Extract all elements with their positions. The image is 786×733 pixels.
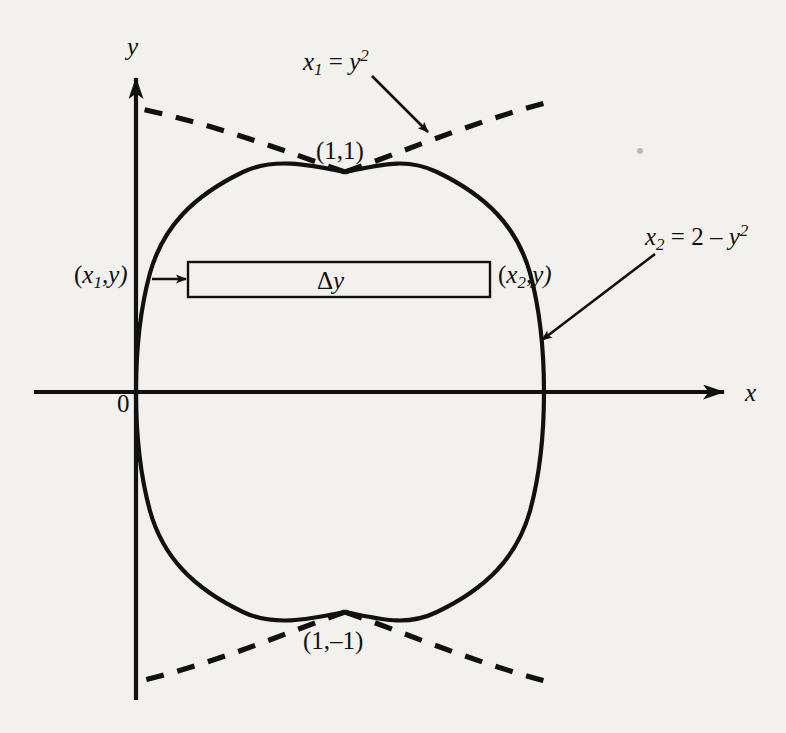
label-origin: 0 xyxy=(117,391,130,416)
label-curve-x1-equation: x1 = y2 xyxy=(303,47,369,78)
label-strip-right-point: (x2,y) xyxy=(498,262,552,291)
arrow-to-curve-x2 xyxy=(542,254,655,340)
label-intersection-point-bottom: (1,–1) xyxy=(303,628,363,653)
diagram-svg xyxy=(0,0,786,733)
label-curve-x2-rhs: y xyxy=(729,223,740,250)
label-curve-x1-exponent: 2 xyxy=(360,46,369,65)
label-curve-x2-var: x xyxy=(645,223,656,250)
arrow-to-curve-x1 xyxy=(372,76,428,132)
label-curve-x2-equation: x2 = 2 – y2 xyxy=(645,222,748,253)
label-axis-x: x xyxy=(745,380,756,405)
paper-speck xyxy=(637,148,643,154)
label-delta-y: Δy xyxy=(317,268,344,293)
label-strip-right-rest: ,y) xyxy=(526,261,552,288)
label-intersection-point-top: (1,1) xyxy=(316,138,364,163)
label-curve-x2-equals: = 2 – xyxy=(665,223,729,250)
label-curve-x1-var: x xyxy=(303,48,314,75)
label-axis-y: y xyxy=(127,34,138,59)
figure-canvas: x1 = y2 x2 = 2 – y2 (1,1) (1,–1) (x1,y) … xyxy=(0,0,786,733)
label-strip-left-subscript: 1 xyxy=(93,273,102,292)
label-curve-x1-rhs: y xyxy=(349,48,360,75)
label-curve-x1-equals: = xyxy=(323,48,350,75)
label-delta-symbol: Δ xyxy=(317,267,333,294)
curve-x1-dashed-lower xyxy=(345,612,545,681)
curve-x2-solid-lower xyxy=(345,392,544,621)
label-delta-variable: y xyxy=(333,267,344,294)
label-curve-x2-exponent: 2 xyxy=(740,221,749,240)
label-strip-left-rest: ,y) xyxy=(102,261,128,288)
curve-x2-dashed-upper xyxy=(136,108,345,172)
label-curve-x1-subscript: 1 xyxy=(314,60,323,79)
curve-x1-dashed-upper xyxy=(345,103,545,172)
curve-x1-solid-lower xyxy=(136,392,345,621)
label-strip-right-subscript: 2 xyxy=(517,273,526,292)
label-strip-right-var: x xyxy=(506,261,517,288)
label-curve-x2-subscript: 2 xyxy=(656,235,665,254)
curve-x2-equals-2-minus-y-squared xyxy=(136,108,544,682)
label-strip-left-var: x xyxy=(82,261,93,288)
label-strip-left-point: (x1,y) xyxy=(74,262,128,291)
